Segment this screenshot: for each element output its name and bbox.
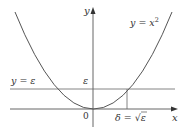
epsilon-tick-label: ε xyxy=(83,75,88,86)
epsilon-line-label: y = ε xyxy=(10,75,35,86)
y-axis-arrow-icon xyxy=(91,7,96,14)
delta-label: δ = √ε xyxy=(115,112,146,123)
origin-label: 0 xyxy=(83,111,89,121)
x-axis-label: x xyxy=(172,112,178,123)
curve-label: y = x2 xyxy=(129,16,159,28)
parabola-diagram: y x 0 y = x2 y = ε ε δ = √ε xyxy=(0,0,186,136)
x-axis-arrow-icon xyxy=(171,107,178,112)
y-axis-label: y xyxy=(83,5,90,16)
